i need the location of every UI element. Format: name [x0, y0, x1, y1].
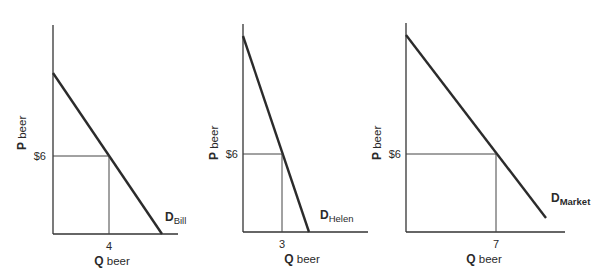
- x-axis-label: Q beer: [94, 254, 130, 268]
- chart-market: $6 7 Q beer P beer DMarket: [370, 23, 591, 266]
- curve-label-market: DMarket: [551, 191, 591, 207]
- y-axis-label: P beer: [15, 116, 29, 150]
- y-axis-label: P beer: [207, 126, 221, 160]
- y-tick-label: $6: [226, 148, 238, 160]
- demand-curve-helen: [243, 36, 309, 232]
- demand-curve-bill: [53, 73, 162, 234]
- x-tick-label: 3: [279, 238, 285, 250]
- chart-bill: $6 4 Q beer P beer DBill: [15, 25, 186, 268]
- chart-helen: $6 3 Q beer P beer DHelen: [207, 24, 368, 266]
- x-tick-label: 4: [106, 240, 112, 252]
- x-tick-label: 7: [493, 238, 499, 250]
- y-axis-label: P beer: [370, 126, 384, 160]
- x-axis-label: Q beer: [284, 252, 320, 266]
- curve-label-bill: DBill: [165, 210, 186, 226]
- y-tick-label: $6: [34, 150, 46, 162]
- demand-curves-figure: $6 4 Q beer P beer DBill $6 3 Q beer P b…: [0, 0, 610, 278]
- y-tick-label: $6: [389, 148, 401, 160]
- x-axis-label: Q beer: [466, 252, 502, 266]
- demand-curve-market: [406, 35, 546, 218]
- curve-label-helen: DHelen: [320, 208, 354, 224]
